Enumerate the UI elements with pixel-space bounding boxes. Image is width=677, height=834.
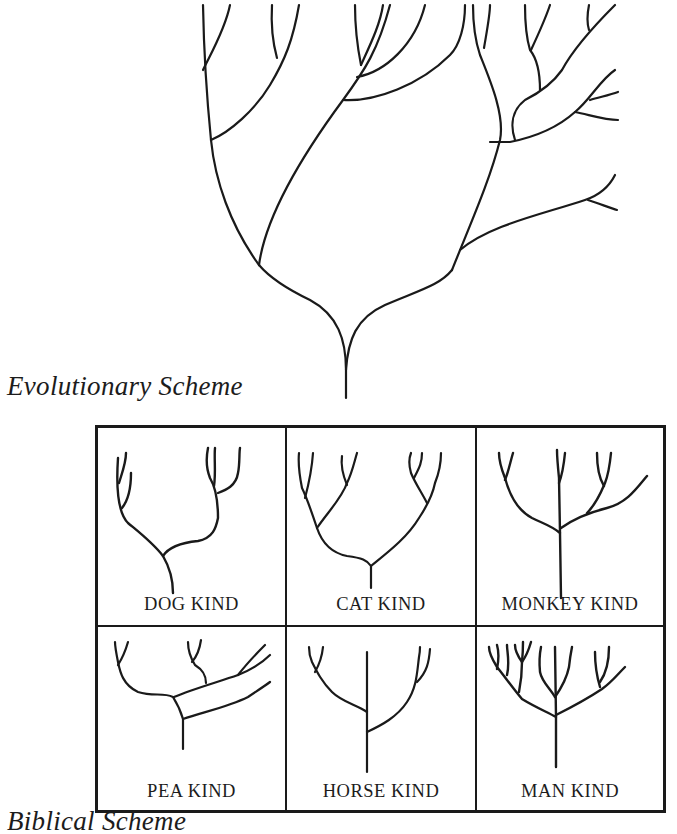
biblical-kinds-grid: DOG KIND CAT KIND MONKEY KIND [95, 425, 666, 813]
kind-cell-cat: CAT KIND [287, 428, 477, 627]
biblical-scheme-caption: Biblical Scheme [7, 806, 186, 834]
kind-cell-dog: DOG KIND [98, 428, 287, 627]
kind-label-pea: PEA KIND [98, 781, 285, 802]
kind-cell-man: MAN KIND [477, 627, 663, 810]
kind-label-cat: CAT KIND [287, 594, 475, 615]
kind-label-dog: DOG KIND [98, 594, 285, 615]
kind-cell-horse: HORSE KIND [287, 627, 477, 810]
kind-label-man: MAN KIND [477, 781, 663, 802]
kind-cell-monkey: MONKEY KIND [477, 428, 663, 627]
evolutionary-scheme-caption: Evolutionary Scheme [7, 371, 243, 402]
kind-cell-pea: PEA KIND [98, 627, 287, 810]
evolutionary-tree-diagram [0, 0, 677, 400]
kind-label-monkey: MONKEY KIND [477, 594, 663, 615]
kind-label-horse: HORSE KIND [287, 781, 475, 802]
